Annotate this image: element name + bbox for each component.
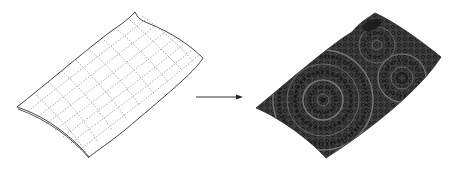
arrow-icon <box>196 95 243 100</box>
textured-surface <box>256 13 450 160</box>
wireframe-mesh <box>17 12 203 158</box>
mesh-outline <box>17 12 203 157</box>
diagram-canvas <box>0 0 455 172</box>
